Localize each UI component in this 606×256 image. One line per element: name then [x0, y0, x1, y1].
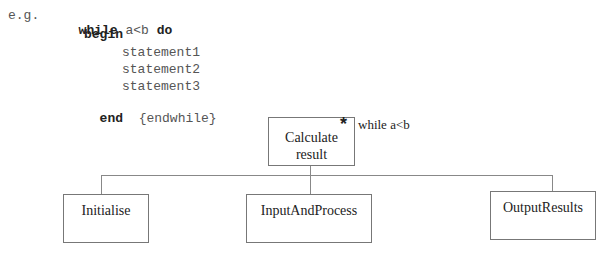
- end-comment: {endwhile}: [139, 111, 217, 126]
- code-line-end: end {endwhile}: [84, 96, 217, 126]
- connector-output: [552, 175, 553, 191]
- statement-1: statement1: [122, 45, 200, 60]
- root-label-line2: result: [269, 146, 354, 163]
- connector-initialise: [101, 175, 102, 194]
- child-box-inputandprocess: InputAndProcess: [246, 194, 372, 243]
- keyword-begin: begin: [84, 27, 123, 42]
- loop-condition: while a<b: [358, 117, 410, 133]
- connector-horizontal: [101, 175, 553, 176]
- code-prefix: e.g.: [8, 8, 39, 23]
- child-label: InputAndProcess: [261, 203, 357, 218]
- child-label: Initialise: [82, 203, 131, 218]
- keyword-end: end: [100, 111, 123, 126]
- condition: a<b: [125, 23, 148, 38]
- statement-2: statement2: [122, 62, 200, 77]
- child-label: OutputResults: [503, 200, 583, 215]
- connector-root-down: [310, 166, 311, 194]
- child-box-outputresults: OutputResults: [490, 191, 596, 240]
- iteration-marker: *: [340, 114, 347, 135]
- keyword-do: do: [157, 23, 173, 38]
- statement-3: statement3: [122, 79, 200, 94]
- child-box-initialise: Initialise: [63, 194, 149, 243]
